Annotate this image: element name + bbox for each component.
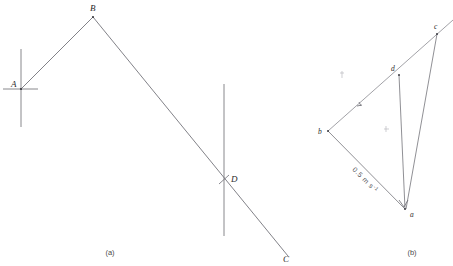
point-a-lower-marker (404, 208, 406, 210)
kinematics-figure: A B D C (a) (0, 0, 453, 266)
segment-ab (21, 17, 93, 89)
point-c-lower-label: c (434, 22, 438, 31)
point-b-marker (92, 16, 94, 18)
point-a-lower-label: a (410, 210, 414, 219)
faint-mark-upper-left (340, 71, 344, 78)
caption-panel-b: (b) (407, 248, 417, 257)
vector-da (399, 75, 405, 209)
point-b-label: B (90, 3, 96, 13)
segment-bc (93, 17, 288, 256)
faint-mark-center (384, 126, 389, 132)
point-a-label: A (10, 79, 17, 89)
point-c-label: C (283, 254, 290, 264)
figure-root: A B D C (a) (0, 0, 453, 266)
ray-through-b-d-c (328, 20, 453, 131)
arrowhead-on-bd (357, 102, 362, 106)
point-d-label: D (230, 174, 238, 184)
point-b-lower-marker (327, 130, 329, 132)
vector-ba (328, 131, 405, 209)
point-d-lower-label: d (391, 64, 395, 73)
point-c-lower-marker (436, 33, 438, 35)
panel-a-group: A B D C (a) (3, 3, 290, 264)
point-d-lower-marker (398, 74, 400, 76)
point-b-lower-label: b (318, 127, 322, 136)
caption-panel-a: (a) (105, 248, 115, 257)
point-a-marker (20, 88, 22, 90)
speed-value: 0.5 m s (351, 166, 375, 190)
panel-b-group: b a c d 0.5 m s-1 (b) (318, 20, 453, 257)
vector-ca (406, 34, 437, 209)
